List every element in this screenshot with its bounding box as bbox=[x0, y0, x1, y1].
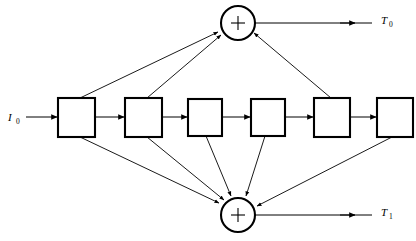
delay-box-3 bbox=[188, 99, 222, 136]
diagram-canvas: I 0 T 0 T 1 bbox=[0, 0, 416, 241]
tap-box5-to-top-adder bbox=[254, 33, 331, 98]
tap-box6-to-bottom-adder bbox=[257, 137, 392, 206]
top-output-subscript: 0 bbox=[389, 20, 393, 29]
tap-box3-to-bottom-adder bbox=[206, 136, 231, 196]
filter-block-diagram: I 0 T 0 T 1 bbox=[0, 0, 416, 241]
bottom-output-symbol: T bbox=[381, 206, 388, 218]
top-adder bbox=[221, 6, 255, 40]
bottom-output-label: T 1 bbox=[381, 206, 393, 221]
tap-box2-to-top-adder bbox=[147, 35, 221, 98]
tap-box4-to-bottom-adder bbox=[246, 136, 265, 196]
input-label: I 0 bbox=[7, 111, 20, 126]
delay-box-5 bbox=[314, 98, 350, 137]
delay-box-6 bbox=[377, 98, 413, 137]
bottom-adder bbox=[221, 198, 255, 232]
bottom-output-subscript: 1 bbox=[389, 212, 393, 221]
tap-box2-to-bottom-adder bbox=[147, 137, 224, 200]
delay-box-1 bbox=[58, 98, 95, 137]
delay-box-4 bbox=[251, 99, 285, 136]
tap-box1-to-bottom-adder bbox=[80, 137, 219, 203]
input-label-symbol: I bbox=[7, 111, 13, 123]
input-label-subscript: 0 bbox=[16, 117, 20, 126]
top-output-label: T 0 bbox=[381, 14, 393, 29]
delay-box-2 bbox=[125, 98, 162, 137]
top-output-symbol: T bbox=[381, 14, 388, 26]
tap-box1-to-top-adder bbox=[80, 32, 218, 98]
